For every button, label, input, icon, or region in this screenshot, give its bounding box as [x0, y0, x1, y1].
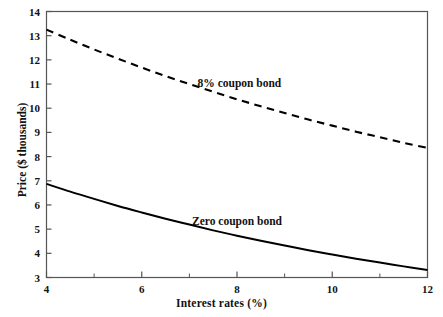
y-axis-ticks: [47, 12, 52, 278]
x-axis-title: Interest rates (%): [0, 297, 443, 309]
axis-frame: [47, 12, 428, 278]
y-tick-label: 13: [14, 30, 40, 42]
x-tick-label: 4: [44, 283, 50, 295]
x-tick-label: 12: [422, 283, 433, 295]
data-series-group: [47, 30, 428, 270]
y-tick-label: 14: [14, 6, 40, 18]
bond-price-chart: 34567891011121314 4681012 8% coupon bond…: [0, 0, 443, 317]
y-tick-label: 3: [14, 272, 40, 284]
series-label-0: 8% coupon bond: [198, 77, 282, 89]
x-axis-ticks: [47, 272, 428, 278]
series-label-1: Zero coupon bond: [192, 215, 282, 227]
plot-frame: [47, 12, 428, 278]
y-tick-label: 5: [14, 223, 40, 235]
y-axis-title: Price ($ thousands): [16, 80, 28, 220]
x-tick-label: 6: [139, 283, 145, 295]
x-tick-label: 10: [327, 283, 338, 295]
series-curve-1: [47, 184, 428, 270]
y-tick-label: 12: [14, 54, 40, 66]
x-tick-label: 8: [234, 283, 240, 295]
chart-plot-area: [0, 0, 443, 317]
y-tick-label: 4: [14, 247, 40, 259]
